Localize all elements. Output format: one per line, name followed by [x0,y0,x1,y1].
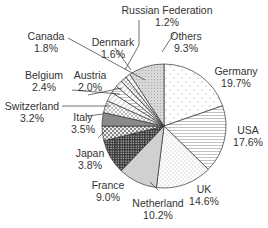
label-italy: Italy 3.5% [68,111,98,135]
label-name: Russian Federation [112,4,222,16]
label-value: 2.0% [70,81,110,93]
label-name: France [90,179,126,191]
label-canada: Canada 1.8% [26,30,66,54]
label-value: 19.7% [210,77,262,89]
label-germany: Germany 19.7% [210,65,262,89]
label-japan: Japan 3.8% [72,147,108,171]
label-value: 1.6% [88,48,138,60]
label-belgium: Belgium 2.4% [22,69,66,93]
label-others: Others 9.3% [168,30,204,54]
label-switzerland: Switzerland 3.2% [0,100,64,124]
label-value: 1.2% [112,16,222,28]
label-name: Germany [210,65,262,77]
label-austria: Austria 2.0% [70,69,110,93]
label-value: 1.8% [26,42,66,54]
label-name: Austria [70,69,110,81]
label-value: 17.6% [230,136,266,148]
label-russia: Russian Federation 1.2% [112,4,222,28]
label-value: 9.3% [168,42,204,54]
label-value: 10.2% [128,209,188,221]
label-denmark: Denmark 1.6% [88,36,138,60]
label-name: Canada [26,30,66,42]
label-value: 3.8% [72,159,108,171]
label-name: Japan [72,147,108,159]
label-name: UK [186,183,222,195]
label-name: Denmark [88,36,138,48]
label-name: Belgium [22,69,66,81]
label-value: 14.6% [186,195,222,207]
label-name: USA [230,124,266,136]
label-value: 9.0% [90,191,126,203]
label-value: 2.4% [22,81,66,93]
label-name: Switzerland [0,100,64,112]
label-name: Others [168,30,204,42]
label-value: 3.2% [0,112,64,124]
label-usa: USA 17.6% [230,124,266,148]
label-uk: UK 14.6% [186,183,222,207]
label-netherland: Netherland 10.2% [128,197,188,221]
label-name: Netherland [128,197,188,209]
label-france: France 9.0% [90,179,126,203]
label-value: 3.5% [68,123,98,135]
label-name: Italy [68,111,98,123]
